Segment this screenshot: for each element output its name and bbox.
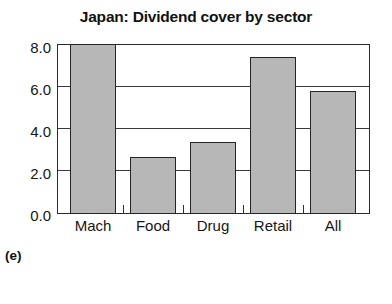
x-axis-tick-1 <box>123 205 124 214</box>
x-axis-label-all: All <box>303 218 363 233</box>
y-axis-tick-label-1: 2.0 <box>7 166 51 181</box>
x-axis-label-mach: Mach <box>63 218 123 233</box>
x-axis-label-drug: Drug <box>183 218 243 233</box>
bar-all[interactable] <box>310 91 356 214</box>
bar-drug[interactable] <box>190 142 236 214</box>
bar-mach[interactable] <box>70 44 116 214</box>
y-axis-tick-label-2: 4.0 <box>7 124 51 139</box>
y-axis-tick-label-0: 0.0 <box>7 208 51 223</box>
x-axis-tick-3 <box>243 205 244 214</box>
x-axis-label-food: Food <box>123 218 183 233</box>
x-axis-tick-2 <box>183 205 184 214</box>
y-axis-tick-label-3: 6.0 <box>7 82 51 97</box>
panel-caption: (e) <box>5 248 22 263</box>
y-axis-tick-label-4: 8.0 <box>7 40 51 55</box>
figure: Japan: Dividend cover by sector 0.0 2.0 … <box>0 0 392 304</box>
x-axis-label-retail: Retail <box>243 218 303 233</box>
bar-food[interactable] <box>130 157 176 214</box>
x-axis-tick-4 <box>303 205 304 214</box>
x-axis-labels: Mach Food Drug Retail All <box>57 218 370 242</box>
bar-series <box>57 44 370 214</box>
bar-retail[interactable] <box>250 57 296 214</box>
chart-title: Japan: Dividend cover by sector <box>0 8 392 26</box>
